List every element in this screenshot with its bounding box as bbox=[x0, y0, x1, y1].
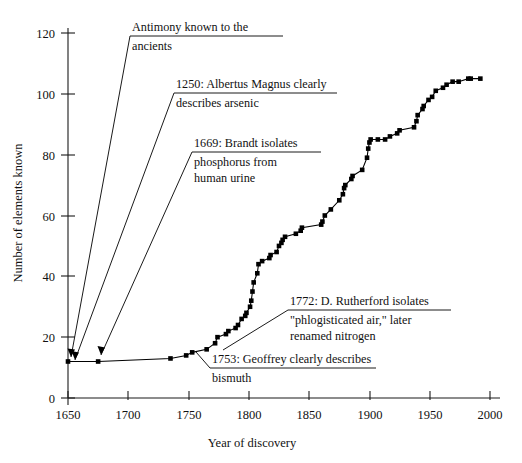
data-point bbox=[433, 88, 438, 93]
x-tick-label-2000: 2000 bbox=[478, 408, 503, 422]
y-axis-title: Number of elements known bbox=[11, 143, 25, 283]
data-series-group bbox=[66, 76, 483, 363]
x-tick-label-1850: 1850 bbox=[297, 408, 322, 422]
y-tick-label-0: 0 bbox=[49, 392, 55, 406]
elements-discovery-line-chart: 0 20 40 60 80 100 120 1650 1700 1750 180… bbox=[0, 0, 522, 463]
data-point bbox=[343, 183, 348, 188]
annotation-antimony-line-1: Antimony known to the bbox=[132, 20, 248, 34]
data-point bbox=[96, 359, 101, 364]
data-point bbox=[274, 250, 279, 255]
data-point bbox=[255, 271, 260, 276]
data-point bbox=[360, 168, 365, 173]
data-point bbox=[215, 335, 220, 340]
x-tick-label-1650: 1650 bbox=[56, 408, 81, 422]
data-point bbox=[397, 128, 402, 133]
data-point bbox=[368, 137, 373, 142]
data-point bbox=[415, 113, 420, 118]
data-point bbox=[260, 259, 265, 264]
data-point bbox=[283, 234, 288, 239]
x-axis-ticks: 1650 1700 1750 1800 1850 1900 1950 2000 bbox=[56, 391, 503, 422]
annotation-phosphorus: 1669: Brandt isolates phosphorus from hu… bbox=[194, 136, 298, 185]
chart-figure: 0 20 40 60 80 100 120 1650 1700 1750 180… bbox=[0, 0, 522, 463]
x-tick-label-1750: 1750 bbox=[177, 408, 202, 422]
x-tick-label-1900: 1900 bbox=[358, 408, 383, 422]
data-point bbox=[365, 155, 370, 160]
x-axis-title: Year of discovery bbox=[208, 436, 297, 450]
data-point bbox=[366, 146, 371, 151]
data-point bbox=[388, 134, 393, 139]
annotation-arsenic-line-2: describes arsenic bbox=[176, 96, 259, 110]
annotation-arsenic-line-1: 1250: Albertus Magnus clearly bbox=[176, 77, 328, 91]
annotation-antimony-line-2: ancients bbox=[132, 39, 172, 53]
annotation-phosphorus-line-3: human urine bbox=[194, 171, 255, 185]
annotation-nitrogen-line-1: 1772: D. Rutherford isolates bbox=[290, 294, 429, 308]
data-point bbox=[341, 192, 346, 197]
data-point bbox=[414, 119, 419, 124]
data-point bbox=[268, 253, 273, 258]
data-point bbox=[190, 350, 195, 355]
data-point bbox=[468, 76, 473, 81]
leader-arrowhead-arsenic bbox=[72, 351, 80, 360]
data-point bbox=[323, 213, 328, 218]
x-tick-label-1950: 1950 bbox=[418, 408, 443, 422]
data-point bbox=[350, 174, 355, 179]
data-point bbox=[66, 359, 71, 364]
data-point bbox=[456, 79, 461, 84]
y-tick-label-80: 80 bbox=[43, 149, 56, 163]
data-point bbox=[478, 76, 483, 81]
data-point bbox=[450, 79, 455, 84]
data-point bbox=[213, 341, 218, 346]
y-tick-label-20: 20 bbox=[43, 331, 56, 345]
series-markers-cumulative-elements bbox=[66, 76, 483, 363]
data-point bbox=[329, 207, 334, 212]
data-point bbox=[236, 323, 241, 328]
y-tick-label-40: 40 bbox=[43, 270, 56, 284]
data-point bbox=[250, 289, 255, 294]
y-tick-label-100: 100 bbox=[36, 88, 55, 102]
leader-bismuth bbox=[196, 352, 210, 368]
data-point bbox=[248, 304, 253, 309]
data-point bbox=[444, 82, 449, 87]
data-point bbox=[421, 104, 426, 109]
data-point bbox=[376, 137, 381, 142]
leader-nitrogen bbox=[223, 310, 288, 350]
leader-arrowhead-phosphorus bbox=[98, 346, 106, 355]
data-point bbox=[383, 137, 388, 142]
data-point bbox=[244, 311, 249, 316]
data-point bbox=[300, 225, 305, 230]
y-tick-label-120: 120 bbox=[36, 27, 55, 41]
x-tick-label-1700: 1700 bbox=[116, 408, 141, 422]
data-point bbox=[204, 347, 209, 352]
data-point bbox=[251, 280, 256, 285]
annotation-nitrogen-line-2: "phlogisticated air," later bbox=[290, 313, 411, 327]
annotation-bismuth-line-1: 1753: Geoffrey clearly describes bbox=[212, 352, 371, 366]
y-tick-label-60: 60 bbox=[43, 210, 56, 224]
data-point bbox=[226, 329, 231, 334]
annotation-bismuth-line-2: bismuth bbox=[212, 371, 251, 385]
data-point bbox=[294, 231, 299, 236]
data-point bbox=[184, 353, 189, 358]
x-tick-label-1800: 1800 bbox=[237, 408, 262, 422]
annotation-nitrogen: 1772: D. Rutherford isolates "phlogistic… bbox=[290, 294, 429, 343]
data-point bbox=[249, 298, 254, 303]
data-point bbox=[430, 95, 435, 100]
annotation-phosphorus-line-2: phosphorus from bbox=[194, 155, 277, 169]
data-point bbox=[320, 219, 325, 224]
data-point bbox=[168, 356, 173, 361]
data-point bbox=[337, 198, 342, 203]
annotation-phosphorus-line-1: 1669: Brandt isolates bbox=[194, 136, 298, 150]
annotation-nitrogen-line-3: renamed nitrogen bbox=[290, 329, 376, 343]
data-point bbox=[412, 125, 417, 130]
